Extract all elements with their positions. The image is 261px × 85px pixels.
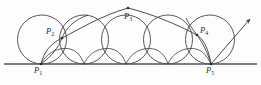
- point-marker-p2: [61, 37, 64, 40]
- cycloid-arch-3: [126, 48, 168, 64]
- cycloid-main-curve-descending: [128, 8, 211, 64]
- point-marker-p1: [40, 63, 43, 66]
- cycloid-figure: P1 P2 P3 P4 P5: [0, 0, 261, 85]
- point-label-p5: P5: [206, 66, 214, 75]
- cycloid-arch-2: [84, 48, 126, 64]
- point-label-p4: P4: [200, 26, 208, 35]
- point-label-p2: P2: [46, 27, 54, 36]
- point-label-p3: P3: [124, 12, 132, 21]
- point-marker-p3: [127, 7, 130, 10]
- point-marker-p4: [196, 34, 199, 37]
- point-label-p1: P1: [34, 66, 42, 75]
